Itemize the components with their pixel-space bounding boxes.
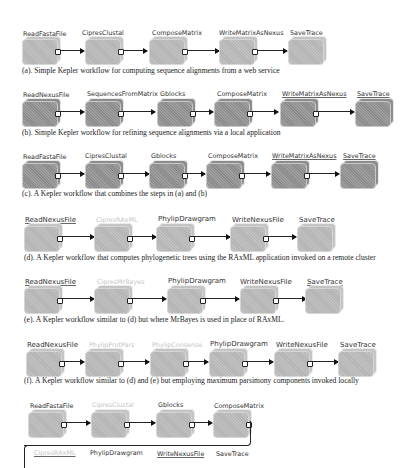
node-label: PhylipDrawgram: [90, 449, 143, 457]
actor-node[interactable]: [240, 288, 278, 314]
connection-arrow: [123, 50, 147, 51]
connection-arrow: [318, 111, 354, 112]
actor-node[interactable]: [94, 288, 132, 314]
actor-node[interactable]: [305, 288, 343, 314]
connection-wrap-start: [250, 421, 251, 422]
node-label: ComposeMatrix: [208, 152, 258, 160]
actor-node[interactable]: [288, 39, 326, 65]
caption: (f). A Kepler workflow similar to (d) an…: [24, 376, 359, 385]
connection-arrow: [188, 361, 208, 362]
actor-node[interactable]: [156, 226, 194, 252]
actor-node[interactable]: [274, 351, 312, 377]
connection-arrow: [132, 236, 156, 237]
actor-node[interactable]: [24, 226, 62, 252]
connection-arrow: [194, 236, 230, 237]
connection-arrow: [62, 236, 94, 237]
node-label: SaveTrace: [343, 152, 376, 160]
node-label: CipresRAxML: [34, 449, 75, 457]
actor-node[interactable]: [26, 351, 64, 377]
actor-node[interactable]: [150, 351, 188, 377]
node-label: PhylipDrawgram: [158, 215, 216, 223]
actor-node[interactable]: [297, 226, 335, 252]
actor-node[interactable]: [206, 163, 244, 189]
connection-arrow: [252, 111, 278, 112]
actor-node[interactable]: [149, 39, 187, 65]
connection-arrow: [244, 173, 270, 174]
actor-node[interactable]: [22, 39, 60, 65]
actor-node[interactable]: [149, 163, 187, 189]
actor-node[interactable]: [85, 351, 123, 377]
actor-node[interactable]: [209, 351, 247, 377]
connection-arrow: [187, 50, 219, 51]
node-label: Gblocks: [151, 152, 176, 160]
connection-arrow: [123, 173, 149, 174]
connection-arrow: [62, 298, 94, 299]
actor-node[interactable]: [340, 163, 378, 189]
connection-arrow: [123, 111, 155, 112]
connection-arrow: [247, 361, 273, 362]
actor-node[interactable]: [94, 226, 132, 252]
connection-arrow: [123, 361, 149, 362]
actor-node[interactable]: [85, 101, 123, 127]
connection-arrow: [195, 111, 213, 112]
connection-arrow: [60, 111, 84, 112]
caption: (a). Simple Kepler workflow for computin…: [22, 66, 280, 75]
connection-arrow: [278, 298, 306, 299]
caption: (c). A Kepler workflow that combines the…: [22, 189, 207, 198]
connection-arrow: [132, 298, 166, 299]
node-label: WriteMatrixAsNexus: [272, 152, 336, 160]
connection-arrow: [205, 298, 239, 299]
connection-arrow: [187, 173, 205, 174]
actor-node[interactable]: [219, 39, 257, 65]
connection-arrow: [64, 361, 84, 362]
node-label: SaveTrace: [357, 90, 390, 98]
actor-node[interactable]: [85, 163, 123, 189]
actor-node[interactable]: [22, 163, 60, 189]
node-label: PhylipDrawgram: [168, 277, 226, 285]
node-label: CipresClustal: [92, 401, 134, 409]
connection-wrap: [24, 445, 31, 468]
node-label: SaveTrace: [216, 450, 249, 458]
actor-node[interactable]: [230, 226, 268, 252]
actor-node[interactable]: [22, 101, 60, 127]
connection-arrow: [312, 361, 338, 362]
actor-node[interactable]: [85, 39, 123, 65]
connection-arrow: [60, 50, 84, 51]
caption: (d). A Kepler workflow that computes phy…: [24, 253, 376, 262]
caption: (b). Simple Kepler workflow for refining…: [22, 128, 281, 137]
actor-node[interactable]: [355, 101, 393, 127]
actor-node[interactable]: [24, 288, 62, 314]
node-label: SequencesFromMatrix: [87, 90, 158, 98]
node-label: PhylipDrawgram: [210, 340, 268, 348]
actor-node[interactable]: [167, 288, 205, 314]
actor-node[interactable]: [214, 101, 252, 127]
actor-node[interactable]: [271, 163, 309, 189]
actor-node[interactable]: [280, 101, 318, 127]
connection-arrow: [268, 236, 296, 237]
node-label: WriteMatrixAsNexus: [282, 90, 346, 98]
actor-node[interactable]: [338, 351, 376, 377]
node-label: ComposeMatrix: [217, 90, 267, 98]
connection-wrap: [24, 421, 251, 446]
connection-arrow: [257, 50, 287, 51]
node-label: WriteNexusFile: [157, 450, 204, 458]
connection-arrow: [60, 173, 84, 174]
caption: (e). A Kepler workflow similar to (d) bu…: [24, 315, 284, 324]
actor-node[interactable]: [157, 101, 195, 127]
node-label: Gblocks: [160, 90, 185, 98]
connection-arrow: [309, 173, 339, 174]
node-label: Gblocks: [158, 401, 183, 409]
node-label: CipresClustal: [85, 152, 127, 160]
